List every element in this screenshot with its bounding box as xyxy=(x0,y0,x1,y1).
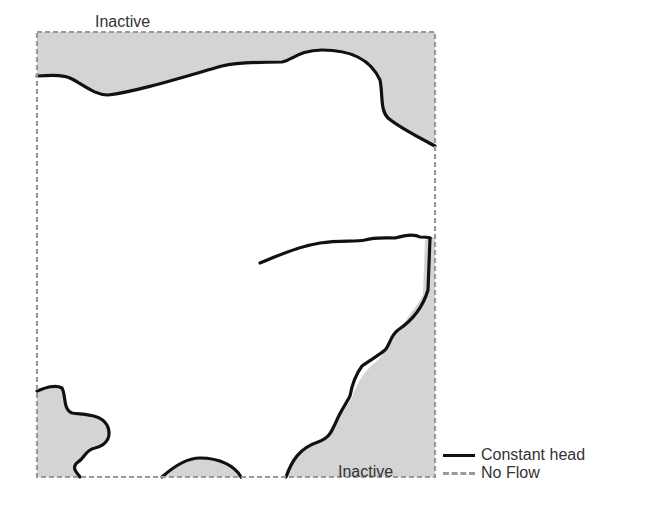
legend-item-constant-head: Constant head xyxy=(443,446,585,464)
legend-label: Constant head xyxy=(481,446,585,464)
dashed-line-icon xyxy=(443,468,475,478)
inactive-region-top xyxy=(37,32,435,148)
legend-label: No Flow xyxy=(481,464,540,482)
region-label-bottom-right: Inactive xyxy=(338,463,393,481)
region-label-top: Inactive xyxy=(95,13,150,31)
inactive-region-bottom-right xyxy=(286,237,435,477)
constant-head-middle xyxy=(260,235,430,263)
legend-item-no-flow: No Flow xyxy=(443,464,585,482)
legend: Constant head No Flow xyxy=(443,446,585,482)
solid-line-icon xyxy=(443,450,475,460)
inactive-region-bottom-left xyxy=(37,386,109,477)
